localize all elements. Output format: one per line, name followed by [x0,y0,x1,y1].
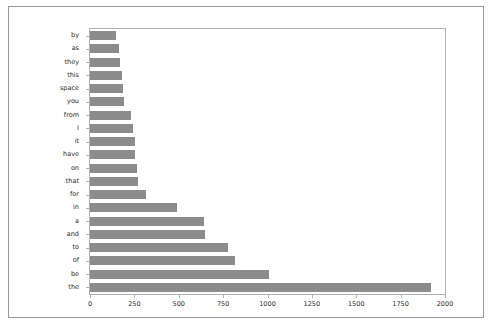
bar-from [90,111,131,120]
y-tick-label-be: be [71,270,79,279]
x-tick-label-250: 250 [128,300,140,308]
bar-space [90,84,123,93]
bar-fill [90,111,131,120]
bar-fill [90,137,135,146]
y-tick-mark [86,102,89,103]
bar-fill [90,243,228,252]
y-tick-label-i: I [77,124,79,133]
bar-fill [90,230,205,239]
y-tick-mark [86,155,89,156]
y-tick-mark [86,274,89,275]
y-tick-label-by: by [71,31,79,40]
y-tick-label-from: from [64,111,79,120]
y-tick-mark [86,49,89,50]
bar-fill [90,203,177,212]
y-tick-mark [86,89,89,90]
y-tick-mark [86,115,89,116]
bar-on [90,164,137,173]
y-tick-mark [86,248,89,249]
bar-fill [90,58,120,67]
bar-for [90,190,146,199]
bar-fill [90,177,138,186]
bar-it [90,137,135,146]
bar-that [90,177,138,186]
x-tick-label-1250: 1250 [304,300,321,308]
bar-to [90,243,228,252]
bar-the [90,283,431,292]
bar-and [90,230,205,239]
bar-fill [90,97,124,106]
bar-this [90,71,122,80]
x-tick-mark [268,295,269,298]
chart-screenshot: byastheythisspaceyoufromIithaveonthatfor… [0,0,494,326]
y-tick-mark [86,168,89,169]
bars-layer [90,29,445,294]
y-tick-label-they: they [64,58,79,67]
y-tick-mark [86,221,89,222]
y-tick-mark [86,142,89,143]
y-tick-label-a: a [75,217,79,226]
bar-fill [90,256,235,265]
bar-as [90,44,119,53]
y-tick-label-as: as [72,44,79,53]
y-tick-label-this: this [67,71,79,80]
x-tick-mark [179,295,180,298]
x-tick-mark [445,295,446,298]
y-tick-label-on: on [71,164,79,173]
bar-of [90,256,235,265]
bar-be [90,270,269,279]
y-tick-mark [86,287,89,288]
bar-in [90,203,177,212]
figure-frame: byastheythisspaceyoufromIithaveonthatfor… [8,6,484,318]
bar-fill [90,71,122,80]
y-tick-label-the: the [68,283,79,292]
bar-fill [90,190,146,199]
y-tick-label-and: and [67,230,79,239]
bar-fill [90,270,269,279]
x-tick-mark [134,295,135,298]
y-tick-mark [86,234,89,235]
y-tick-label-it: it [75,137,79,146]
x-tick-mark [90,295,91,298]
bar-fill [90,44,119,53]
x-tick-label-750: 750 [217,300,229,308]
bar-i [90,124,133,133]
bar-fill [90,164,137,173]
y-tick-mark [86,36,89,37]
y-tick-mark [86,75,89,76]
plot-axes-area [89,28,446,295]
x-tick-label-500: 500 [173,300,185,308]
x-tick-label-0: 0 [88,300,92,308]
x-tick-mark [401,295,402,298]
y-tick-label-have: have [63,150,79,159]
y-tick-mark [86,62,89,63]
bar-by [90,31,116,40]
bar-you [90,97,124,106]
bar-fill [90,217,204,226]
x-axis-ticks-and-labels: 025050075010001250150017502000 [89,295,446,315]
y-tick-label-you: you [67,97,79,106]
y-tick-mark [86,181,89,182]
x-tick-mark [312,295,313,298]
bar-fill [90,124,133,133]
x-tick-label-2000: 2000 [437,300,454,308]
bar-fill [90,150,135,159]
x-tick-label-1750: 1750 [392,300,409,308]
x-tick-mark [223,295,224,298]
x-tick-mark [356,295,357,298]
y-tick-label-space: space [60,84,79,93]
y-tick-mark [86,128,89,129]
bar-fill [90,84,123,93]
y-tick-mark [86,208,89,209]
bar-fill [90,283,431,292]
y-tick-label-for: for [70,190,79,199]
x-tick-label-1000: 1000 [259,300,276,308]
y-tick-label-in: in [73,203,79,212]
bar-fill [90,31,116,40]
y-tick-mark [86,195,89,196]
bar-a [90,217,204,226]
bar-have [90,150,135,159]
y-tick-label-that: that [66,177,79,186]
y-tick-label-to: to [72,243,79,252]
bar-they [90,58,120,67]
